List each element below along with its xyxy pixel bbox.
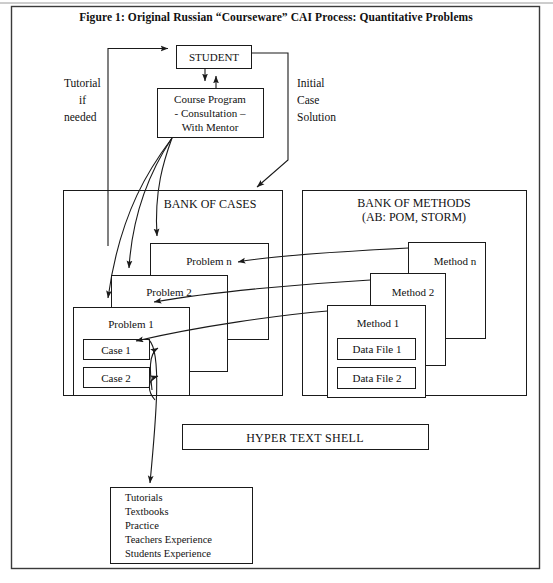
course-program-line1: Course Program: [174, 93, 246, 105]
resource-item-textbooks: Textbooks: [125, 506, 169, 517]
method-2-label: Method 2: [392, 286, 434, 298]
bank-of-cases-title: BANK OF CASES: [164, 197, 257, 211]
data-file-1-label: Data File 1: [353, 343, 402, 355]
resource-item-teachers-experience: Teachers Experience: [125, 534, 212, 545]
course-program-line2: - Consultation –: [175, 107, 246, 119]
initial-label-line3: Solution: [297, 111, 336, 123]
case-1-label: Case 1: [101, 344, 131, 356]
bank-of-methods-title-line2: (AB: POM, STORM): [362, 210, 466, 224]
cai-process-diagram: Figure 1: Original Russian “Courseware” …: [0, 0, 553, 583]
method-1-label: Method 1: [357, 317, 399, 329]
tutorial-label-line3: needed: [64, 111, 97, 123]
problem-2-label: Problem 2: [146, 286, 192, 298]
problem-1-label: Problem 1: [108, 318, 154, 330]
case-2-label: Case 2: [101, 372, 131, 384]
problem-n-label: Problem n: [186, 255, 232, 267]
initial-label-line2: Case: [297, 94, 319, 106]
tutorial-label-line2: if: [79, 94, 86, 106]
initial-label-line1: Initial: [297, 77, 324, 89]
edge-course-program-to-problem-n: [156, 138, 172, 236]
tutorial-label-line1: Tutorial: [64, 77, 101, 89]
resource-item-tutorials: Tutorials: [125, 492, 163, 503]
resource-item-students-experience: Students Experience: [125, 548, 211, 559]
hyper-text-shell-label: HYPER TEXT SHELL: [246, 431, 364, 445]
method-n-label: Method n: [434, 255, 477, 267]
edge-tutorial-loop-to-student: [108, 49, 168, 247]
figure-title: Figure 1: Original Russian “Courseware” …: [79, 11, 473, 24]
figure-container: Figure 1: Original Russian “Courseware” …: [0, 0, 553, 583]
course-program-line3: With Mentor: [182, 121, 239, 133]
student-label: STUDENT: [189, 51, 239, 63]
resource-item-practice: Practice: [125, 520, 159, 531]
bank-of-methods-title-line1: BANK OF METHODS: [357, 196, 470, 210]
data-file-2-label: Data File 2: [353, 372, 402, 384]
